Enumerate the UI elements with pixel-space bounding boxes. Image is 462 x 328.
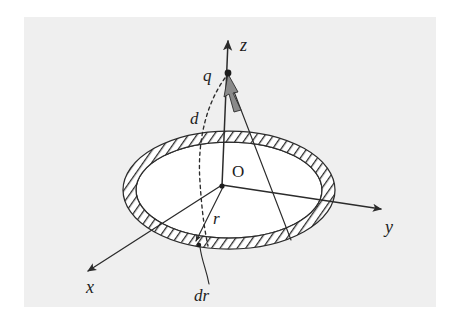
x-axis-label: x — [85, 277, 94, 297]
figure-root: z y x O q d r dr — [0, 0, 462, 328]
charge-point-marker — [225, 70, 232, 77]
hatched-ring — [110, 120, 350, 262]
ring-element-marker — [197, 243, 201, 247]
distance-label: d — [190, 109, 199, 128]
origin-point-marker — [219, 183, 224, 188]
z-axis-label: z — [239, 35, 247, 55]
radius-label: r — [213, 209, 220, 228]
ring-width-label: dr — [194, 286, 210, 305]
origin-label: O — [232, 162, 244, 181]
physics-diagram: z y x O q d r dr — [0, 0, 462, 328]
y-axis-label: y — [383, 217, 393, 237]
charge-label: q — [203, 66, 212, 85]
